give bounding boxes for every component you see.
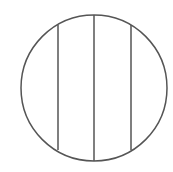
circle-chord-diagram: Circle divided by three vertical chords … xyxy=(0,0,173,172)
figure-canvas: Circle divided by three vertical chords … xyxy=(0,0,173,172)
background xyxy=(0,0,173,172)
